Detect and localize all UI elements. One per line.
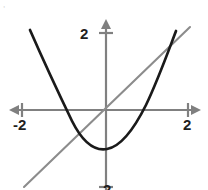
- x-axis-left-arrow-icon: [9, 105, 19, 115]
- y-axis-tick-label-bottom: -2: [98, 182, 111, 190]
- x-axis-right-arrow-icon: [191, 105, 201, 115]
- graph-figure: , 2 -2 2 -2: [0, 0, 208, 190]
- x-axis-tick-label-left: -2: [13, 117, 26, 132]
- x-axis-tick-label-right: 2: [183, 117, 191, 132]
- y-axis-up-arrow-icon: [101, 19, 111, 29]
- series-parabola-curve: [30, 30, 176, 149]
- y-axis-tick-label-top: 2: [80, 26, 88, 41]
- plot-area: [0, 0, 208, 190]
